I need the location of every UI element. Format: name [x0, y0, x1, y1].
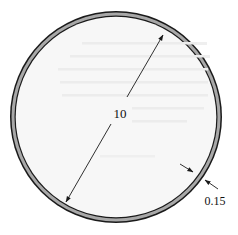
- diagram-canvas: 10 0.15: [0, 0, 238, 235]
- thickness-label: 0.15: [205, 194, 226, 208]
- tube-cross-section-figure: 10 0.15: [0, 0, 238, 235]
- diameter-label: 10: [114, 106, 127, 121]
